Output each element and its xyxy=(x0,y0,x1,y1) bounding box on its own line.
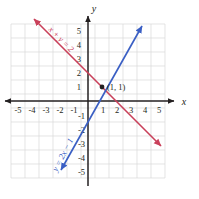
y-tick: -3 xyxy=(78,139,85,149)
intersection-point-label: (1, 1) xyxy=(107,82,126,92)
red-line-equation-label: x + y = 2 xyxy=(46,24,77,55)
graph-canvas: y x -5 -4 -3 -2 -1 1 2 3 4 5 5 4 3 2 1 -… xyxy=(0,0,199,199)
x-tick: 5 xyxy=(157,105,161,115)
y-tick: 2 xyxy=(77,68,81,78)
x-tick: -2 xyxy=(56,105,63,115)
x-tick: -4 xyxy=(28,105,36,115)
y-tick: -4 xyxy=(78,153,86,163)
coordinate-plane-figure: y x -5 -4 -3 -2 -1 1 2 3 4 5 5 4 3 2 1 -… xyxy=(0,0,199,199)
x-tick: -1 xyxy=(70,105,77,115)
x-tick: -3 xyxy=(42,105,49,115)
y-axis-letter: y xyxy=(91,3,97,14)
y-tick-labels-negative: -1 -2 -3 -4 -5 xyxy=(78,111,86,177)
y-tick: -5 xyxy=(78,167,85,177)
y-tick: -1 xyxy=(78,111,85,121)
intersection-point-marker xyxy=(100,85,105,90)
x-tick: -5 xyxy=(14,105,21,115)
x-tick: 1 xyxy=(101,105,105,115)
axis-lines xyxy=(5,16,174,186)
y-tick: 1 xyxy=(77,82,81,92)
x-axis-letter: x xyxy=(181,96,187,107)
y-tick: 5 xyxy=(77,26,81,36)
x-tick: 2 xyxy=(115,105,119,115)
x-tick: 4 xyxy=(143,105,148,115)
